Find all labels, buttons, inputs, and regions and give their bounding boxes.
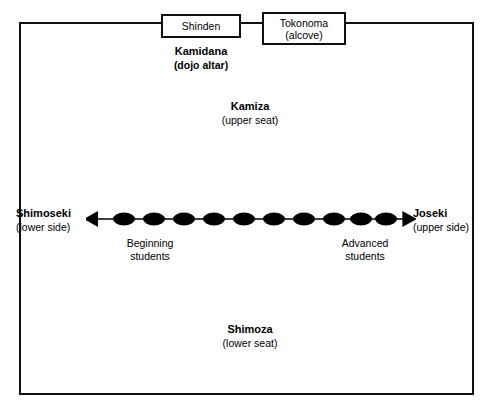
joseki-subtitle: (upper side) [413,221,489,234]
label-kamidana: Kamidana (dojo altar) [138,45,264,72]
student-marker [173,213,195,226]
joseki-title: Joseki [413,207,489,221]
beginning-students-line2: students [92,250,208,263]
label-kamiza: Kamiza (upper seat) [185,100,315,127]
fixture-box-shinden: Shinden [161,14,241,38]
fixture-box-tokonoma: Tokonoma (alcove) [262,12,346,45]
label-shimoza: Shimoza (lower seat) [185,323,315,350]
continuum-svg [86,203,416,235]
shimoza-subtitle: (lower seat) [185,337,315,350]
student-marker [263,213,285,226]
dojo-diagram-page: Shinden Tokonoma (alcove) Kamidana (dojo… [0,0,490,411]
student-marker [293,213,315,226]
tokonoma-sublabel: (alcove) [285,29,322,41]
label-beginning-students: Beginning students [92,237,208,263]
label-joseki: Joseki (upper side) [413,207,489,234]
student-marker [233,213,255,226]
student-marker [323,213,345,226]
student-marker [350,213,372,226]
kamidana-subtitle: (dojo altar) [138,59,264,72]
beginning-students-line1: Beginning [92,237,208,250]
student-marker [113,213,135,226]
advanced-students-line1: Advanced [307,237,423,250]
shimoza-title: Shimoza [185,323,315,337]
tokonoma-label: Tokonoma [280,17,328,29]
kamiza-subtitle: (upper seat) [185,114,315,127]
shinden-label: Shinden [182,20,221,32]
student-marker [203,213,225,226]
student-continuum-arrow [86,203,416,235]
advanced-students-line2: students [307,250,423,263]
label-advanced-students: Advanced students [307,237,423,263]
student-marker-group [113,213,397,226]
kamidana-title: Kamidana [138,45,264,59]
student-marker [143,213,165,226]
student-marker [375,213,397,226]
kamiza-title: Kamiza [185,100,315,114]
